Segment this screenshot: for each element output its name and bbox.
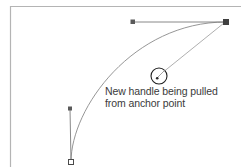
end-handle[interactable]: [131, 20, 226, 25]
illustration-canvas: New handle being pulled from anchor poin…: [0, 0, 241, 167]
annotation-line-2: from anchor point: [105, 98, 241, 110]
end-handle-endpoint-icon[interactable]: [131, 20, 136, 25]
pen-cursor-circle: [151, 68, 167, 84]
annotation-label: New handle being pulled from anchor poin…: [105, 86, 241, 109]
start-anchor-point-icon[interactable]: [69, 160, 74, 165]
start-handle-line: [70, 109, 71, 161]
cursor-leader-line: [165, 23, 225, 71]
end-anchor-point-icon[interactable]: [223, 19, 229, 25]
vector-drawing: [0, 0, 241, 167]
cursor-center-dot-icon: [156, 77, 159, 80]
cursor-inner-leader-line: [157, 70, 165, 78]
annotation-line-1: New handle being pulled: [105, 86, 241, 98]
start-handle-endpoint-icon[interactable]: [68, 107, 72, 111]
